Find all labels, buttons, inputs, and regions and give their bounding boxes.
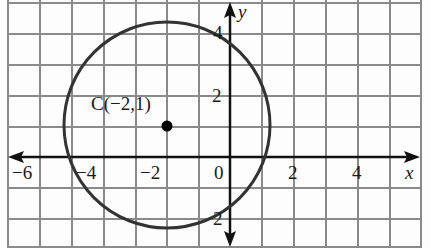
x-tick-neg4: −4 [76,162,97,183]
x-tick-neg2: −2 [140,162,160,183]
y-axis-label: y [236,1,247,22]
x-tick-neg6: −6 [12,162,32,183]
y-tick-4: 4 [213,22,223,43]
center-label: C(−2,1) [91,93,151,115]
x-tick-2: 2 [288,162,298,183]
x-tick-4: 4 [352,162,362,183]
graph-svg: C(−2,1) −6 −4 −2 0 2 4 4 2 2 x y [0,0,430,248]
x-axis-label: x [404,162,414,183]
y-tick-neg2: 2 [213,208,223,229]
y-tick-2: 2 [212,85,222,106]
center-point [162,121,173,132]
x-tick-0: 0 [214,162,224,183]
coordinate-plane: C(−2,1) −6 −4 −2 0 2 4 4 2 2 x y [0,0,430,248]
